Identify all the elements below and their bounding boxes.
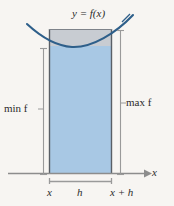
tick-label-x-plus-h: x + h <box>110 187 133 198</box>
figure-container: y = f(x) min f max f x x h x + h <box>0 0 174 206</box>
min-f-blue-rectangle <box>49 46 112 173</box>
min-f-label: min f <box>4 103 28 114</box>
curve-label: y = f(x) <box>72 8 105 19</box>
min-f-bracket <box>38 48 47 175</box>
tick-label-h: h <box>77 187 83 198</box>
max-f-label: max f <box>126 97 151 108</box>
tick-label-x: x <box>47 187 52 198</box>
x-axis-label: x <box>152 167 157 178</box>
interval-h-brace <box>50 178 112 184</box>
x-axis-arrowhead <box>144 170 152 178</box>
max-f-bracket <box>117 30 126 175</box>
